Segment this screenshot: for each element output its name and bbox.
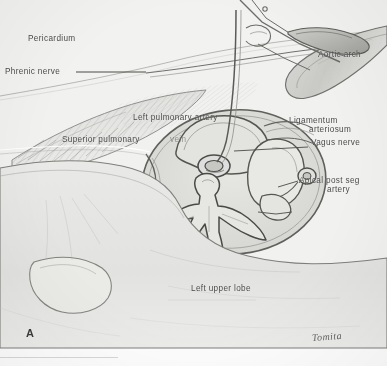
label-apical-post-seg-artery-line2: artery (327, 185, 350, 195)
label-pericardium: Pericardium (28, 34, 76, 44)
anatomical-figure: Pericardium Phrenic nerve Aortic arch Le… (0, 0, 387, 366)
label-aortic-arch: Aortic arch (318, 50, 361, 60)
panel-letter: A (26, 327, 34, 339)
label-left-upper-lobe: Left upper lobe (191, 284, 251, 294)
label-vagus-nerve: Vagus nerve (311, 138, 360, 148)
label-left-pulmonary-artery: Left pulmonary artery (133, 113, 218, 123)
label-superior-pulmonary-vein-continued: vein (170, 135, 186, 145)
label-superior-pulmonary-vein: Superior pulmonary (62, 135, 140, 145)
label-ligamentum-arteriosum-line2: arteriosum (309, 125, 351, 135)
label-phrenic-nerve: Phrenic nerve (5, 67, 60, 77)
artist-signature: Tomita (312, 330, 343, 343)
